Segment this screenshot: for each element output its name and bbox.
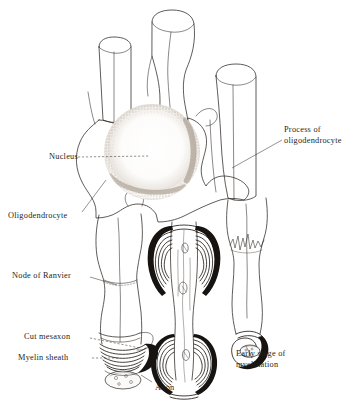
label-process-line1: Process of [284, 125, 342, 136]
unrolled-myelin-axon-center [148, 222, 221, 399]
illustration-canvas [0, 0, 360, 405]
label-early-line2: myelination [236, 360, 286, 371]
leader-oligodendrocyte [82, 180, 106, 212]
label-process-line2: oligodendrocyte [284, 136, 342, 147]
label-cut-mesaxon: Cut mesaxon [24, 332, 70, 343]
leader-process-of-oligodendrocyte [232, 140, 282, 168]
label-myelin-sheath: Myelin sheath [18, 353, 69, 364]
leader-cut-mesaxon [90, 338, 140, 348]
cut-axon-face-left [100, 344, 158, 389]
nucleus [104, 104, 200, 200]
cut-axon-top-right [210, 64, 256, 200]
myelin-lamellae-left [100, 344, 158, 373]
myelin-lamellae-upper [148, 225, 221, 296]
label-nucleus: Nucleus [16, 152, 78, 163]
label-early-stage-of-myelination: Early stage of myelination [236, 349, 286, 370]
oligodendrocyte-figure: Nucleus Oligodendrocyte Node of Ranvier … [0, 0, 360, 405]
leader-axon [141, 375, 152, 382]
label-oligodendrocyte: Oligodendrocyte [8, 211, 68, 222]
leader-node-of-ranvier [90, 277, 117, 285]
cut-axon-top-left [88, 37, 131, 124]
myelinated-axon-right [227, 198, 269, 369]
label-node-of-ranvier: Node of Ranvier [12, 271, 71, 282]
label-process-of-oligodendrocyte: Process of oligodendrocyte [284, 125, 342, 146]
label-axon: Axon [155, 383, 174, 394]
label-early-line1: Early stage of [236, 349, 286, 360]
myelinated-axon-left [96, 214, 153, 350]
